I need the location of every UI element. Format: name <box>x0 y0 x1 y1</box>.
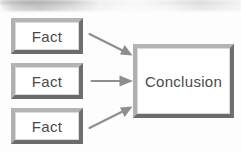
conclusion-box-label: Conclusion <box>145 74 222 89</box>
arrow-fact2-to-conclusion <box>90 74 134 88</box>
arrow-fact1-to-conclusion <box>88 32 134 58</box>
arrow-fact3-to-conclusion <box>88 104 134 130</box>
fact-box-2-label: Fact <box>32 74 62 89</box>
diagram-canvas: Fact Fact Fact Conclusion <box>0 0 241 152</box>
scan-smudge-top-dark <box>0 0 241 5</box>
fact-box-2[interactable]: Fact <box>11 63 83 99</box>
fact-box-1[interactable]: Fact <box>11 18 83 54</box>
fact-box-3[interactable]: Fact <box>11 108 83 144</box>
fact-box-1-label: Fact <box>32 29 62 44</box>
scan-smudge-top <box>0 0 241 11</box>
conclusion-box[interactable]: Conclusion <box>133 44 234 118</box>
fact-box-3-label: Fact <box>32 119 62 134</box>
